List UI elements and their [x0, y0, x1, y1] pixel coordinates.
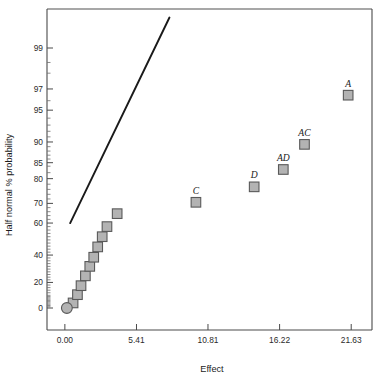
x-axis-major-ticks [65, 324, 351, 330]
y-tick-label: 90 [34, 137, 44, 147]
x-tick-label: 5.41 [128, 335, 145, 345]
data-point-labels: CDADACA [193, 78, 352, 196]
data-point-square [279, 165, 289, 175]
y-tick-label: 99 [34, 43, 44, 53]
data-point-label: D [250, 169, 258, 180]
data-point-label: AC [297, 127, 311, 138]
data-point-circle [61, 303, 72, 314]
data-point-square [112, 209, 122, 219]
y-tick-label: 97 [34, 84, 44, 94]
x-axis-title: Effect [200, 364, 224, 374]
data-point-square [343, 90, 353, 100]
data-point-label: AD [276, 152, 290, 163]
data-point-square [191, 197, 201, 207]
data-point-square [76, 281, 86, 291]
data-point-square [93, 242, 103, 252]
y-axis-tick-labels: 020406070808590959799 [34, 43, 44, 313]
data-point-square [73, 290, 83, 300]
data-point-label: C [193, 185, 200, 196]
y-tick-label: 85 [34, 158, 44, 168]
data-point-label: A [344, 78, 351, 89]
data-point-square [97, 232, 107, 242]
y-tick-label: 20 [34, 277, 44, 287]
data-point-square [85, 262, 95, 272]
x-tick-label: 10.81 [197, 335, 218, 345]
x-tick-label: 21.63 [341, 335, 362, 345]
y-tick-label: 95 [34, 105, 44, 115]
y-tick-label: 60 [34, 218, 44, 228]
data-point-square [89, 252, 99, 262]
y-axis-title: Half normal % probability [4, 134, 14, 237]
data-markers [61, 90, 353, 313]
x-tick-label: 16.22 [269, 335, 290, 345]
y-tick-label: 40 [34, 250, 44, 260]
x-axis-tick-labels: 0.005.4110.8116.2221.63 [57, 335, 362, 345]
data-point-square [300, 140, 310, 150]
y-tick-label: 70 [34, 198, 44, 208]
plot-canvas: 020406070808590959799 0.005.4110.8116.22… [0, 0, 383, 381]
reference-line [70, 17, 169, 223]
reference-line-segment [70, 17, 169, 223]
data-point-square [81, 271, 91, 281]
y-tick-label: 0 [38, 303, 43, 313]
half-normal-probability-plot: 020406070808590959799 0.005.4110.8116.22… [0, 0, 383, 381]
y-tick-label: 80 [34, 174, 44, 184]
x-tick-label: 0.00 [57, 335, 74, 345]
data-point-square [249, 182, 259, 192]
data-point-square [102, 222, 112, 232]
